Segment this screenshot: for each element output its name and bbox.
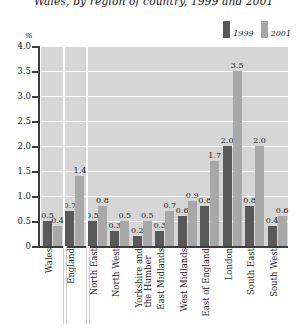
y-axis-tick: [32, 171, 39, 173]
y-axis-labels: 00.51.01.52.02.53.03.54.0: [0, 0, 31, 329]
chart-title-line2: Wales, by region of country, 1999 and 20…: [34, 0, 292, 7]
legend-swatch-2001: [261, 21, 268, 38]
y-axis-tick-label: 2.5: [1, 116, 31, 126]
category-label: North East: [90, 248, 99, 295]
legend-item-1999: 1999: [223, 21, 253, 38]
category-label: North West: [112, 248, 121, 297]
panel-separator: [86, 46, 88, 246]
category-label: England: [67, 248, 76, 284]
category-label: Yorkshire and the Humber: [135, 248, 153, 308]
y-axis-tick: [32, 246, 39, 248]
category-label: Wales: [45, 248, 54, 273]
y-axis-tick: [32, 146, 39, 148]
y-axis-tick-label: 2.0: [1, 141, 31, 151]
bar-1999: [245, 206, 254, 246]
category-label: East Midlands: [157, 248, 166, 310]
panel-separator-lower: [86, 246, 90, 324]
bar-2001: [53, 226, 62, 246]
y-axis-tick: [32, 96, 39, 98]
y-axis-tick-label: 1.0: [1, 191, 31, 201]
bar-group: 0.20.5: [133, 46, 155, 246]
bar-value-label: 3.5: [229, 61, 246, 70]
bar-group: 2.03.5: [223, 46, 245, 246]
y-axis-tick-label: 4.0: [1, 41, 31, 51]
y-axis-tick-label: 1.5: [1, 166, 31, 176]
y-axis-tick: [32, 71, 39, 73]
bar-group: 0.60.9: [178, 46, 200, 246]
bar-group: 0.30.5: [110, 46, 132, 246]
bar-group: 0.81.7: [200, 46, 222, 246]
panel-separator: [63, 46, 65, 246]
legend-item-2001: 2001: [261, 21, 291, 38]
category-label: South East: [247, 248, 256, 295]
bar-1999: [133, 236, 142, 246]
legend-label-1999: 1999: [233, 29, 253, 38]
panel-separator-lower: [63, 246, 67, 324]
y-axis-tick: [32, 46, 39, 48]
y-axis-tick: [32, 121, 39, 123]
y-axis-tick: [32, 196, 39, 198]
bar-value-label: 0.5: [139, 211, 156, 220]
bar-2001: [210, 161, 219, 246]
bar-value-label: 0.6: [274, 206, 291, 215]
category-label: West Midlands: [180, 248, 189, 311]
chart-legend: 1999 2001: [223, 21, 291, 38]
category-label: South West: [270, 248, 279, 297]
bar-groups: 0.50.40.71.40.50.80.30.50.20.50.30.70.60…: [41, 46, 288, 246]
bar-value-label: 0.8: [94, 196, 111, 205]
bar-1999: [178, 216, 187, 246]
bar-2001: [278, 216, 287, 246]
category-labels: WalesEnglandNorth EastNorth WestYorkshir…: [41, 248, 288, 329]
bar-group: 0.50.8: [88, 46, 110, 246]
bar-2001: [233, 71, 242, 246]
legend-label-2001: 2001: [271, 29, 291, 38]
category-label: East of England: [202, 248, 211, 317]
bar-2001: [188, 201, 197, 246]
y-axis-tick-label: 3.5: [1, 66, 31, 76]
bar-group: 0.50.4: [43, 46, 65, 246]
bar-1999: [155, 231, 164, 246]
bar-2001: [165, 211, 174, 246]
category-label: London: [225, 248, 234, 280]
y-axis-tick: [32, 221, 39, 223]
bar-1999: [65, 211, 74, 246]
bar-value-label: 2.0: [251, 136, 268, 145]
y-axis-tick-label: 0: [1, 241, 31, 251]
bar-1999: [268, 226, 277, 246]
bar-2001: [255, 146, 264, 246]
y-axis-tick-label: 0.5: [1, 216, 31, 226]
y-axis-tick-label: 3.0: [1, 91, 31, 101]
bar-value-label: 0.5: [116, 211, 133, 220]
bar-group: 0.40.6: [268, 46, 290, 246]
bar-1999: [88, 221, 97, 246]
legend-swatch-1999: [223, 21, 230, 38]
bar-1999: [110, 231, 119, 246]
bar-1999: [200, 206, 209, 246]
bar-1999: [223, 146, 232, 246]
bar-value-label: 1.7: [206, 151, 223, 160]
bar-chart: Wales, by region of country, 1999 and 20…: [0, 0, 297, 329]
bar-group: 0.30.7: [155, 46, 177, 246]
chart-title: Wales, by region of country, 1999 and 20…: [34, 0, 292, 7]
